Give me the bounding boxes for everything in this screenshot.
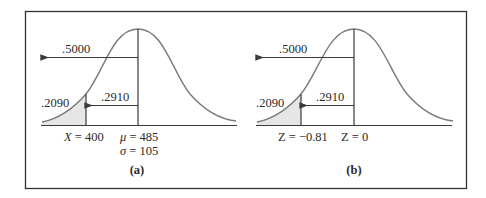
label-area-between: .2910 — [316, 90, 344, 104]
panel-b: .5000 .2910 .2090 Z = −0.81 Z = 0 (b) — [256, 29, 453, 177]
caption-a: (a) — [130, 163, 145, 177]
label-x-cutoff: X = 400 — [63, 130, 104, 144]
normal-distribution-figure: .5000 .2910 .2090 X = 400 μ = 485 σ = 10… — [0, 0, 486, 198]
panel-a: .5000 .2910 .2090 X = 400 μ = 485 σ = 10… — [41, 29, 237, 177]
label-area-half: .5000 — [279, 42, 307, 56]
label-area-between: .2910 — [101, 90, 129, 104]
label-area-tail: .2090 — [41, 96, 69, 110]
label-area-half: .5000 — [62, 42, 90, 56]
figure-frame — [26, 12, 467, 189]
label-area-tail: .2090 — [256, 96, 284, 110]
label-sd: σ = 105 — [120, 144, 158, 158]
caption-b: (b) — [346, 163, 361, 177]
label-z-cutoff: Z = −0.81 — [278, 130, 328, 144]
label-mean: μ = 485 — [119, 130, 158, 144]
label-z-mean: Z = 0 — [341, 130, 368, 144]
